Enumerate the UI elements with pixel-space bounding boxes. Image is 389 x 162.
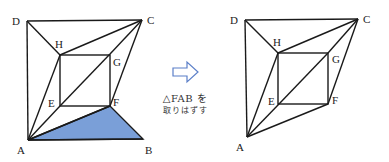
label-h: H bbox=[55, 38, 63, 50]
label-a: A bbox=[17, 144, 25, 156]
label-f-right: F bbox=[332, 94, 338, 106]
label-h-right: H bbox=[273, 36, 281, 48]
label-e-right: E bbox=[268, 95, 275, 107]
label-e: E bbox=[48, 97, 55, 109]
label-f: F bbox=[113, 96, 119, 108]
shaded-triangle-fab bbox=[28, 106, 143, 140]
label-c: C bbox=[147, 14, 154, 26]
label-d-right: D bbox=[230, 14, 238, 26]
label-b: B bbox=[145, 144, 152, 156]
left-figure bbox=[27, 20, 143, 140]
diagram-canvas: D C H G E F A B D C H G E F A bbox=[0, 0, 389, 162]
label-a-right: A bbox=[236, 141, 244, 153]
label-g: G bbox=[113, 56, 121, 68]
right-figure bbox=[245, 19, 358, 137]
label-g-right: G bbox=[332, 53, 340, 65]
caption-line-1: △FAB を bbox=[150, 90, 220, 105]
caption-line-2: 取りはずす bbox=[150, 104, 220, 115]
label-c-right: C bbox=[363, 13, 370, 25]
label-d: D bbox=[12, 15, 20, 27]
right-arrow-icon bbox=[173, 62, 198, 82]
